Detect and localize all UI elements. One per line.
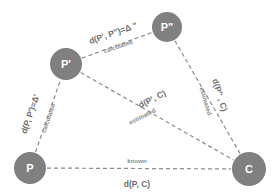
node-Ppp-label: P" [161,21,174,33]
node-Ppp: P" [152,12,182,42]
edge-pdprime-c-sublabel: estimated [198,86,213,116]
node-P: P [14,152,46,184]
edge-pprime-c [81,72,234,160]
graph-canvas: d(P, P')=Δ'calculatedd(P', P")=Δ "calcul… [0,0,274,193]
edge-p-pprime-label: d(P, P')=Δ' [19,93,42,135]
edge-labels-layer: d(P, P')=Δ'calculatedd(P', P")=Δ "calcul… [19,20,230,189]
edge-p-c [47,168,231,169]
node-C: C [232,152,266,186]
node-Pp: P' [50,48,82,80]
node-P-label: P [26,162,33,174]
node-Pp-label: P' [61,58,71,70]
edge-pdprime-c-label: d(P" , C) [210,77,229,112]
edge-p-c-sublabel: known [127,157,147,164]
edge-p-c-label: d(P, C) [124,179,150,189]
node-C-label: C [245,163,253,175]
edge-p-pprime-sublabel: calculated [40,102,57,133]
distance-relation-diagram: d(P, P')=Δ'calculatedd(P', P")=Δ "calcul… [0,0,274,193]
